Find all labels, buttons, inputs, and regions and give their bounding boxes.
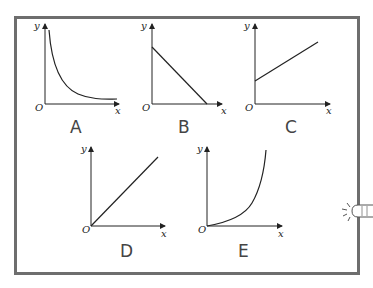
y-axis-label: y [140, 20, 147, 31]
graph-e: y O x E [196, 143, 284, 261]
origin-label: O [142, 102, 150, 113]
graph-label-e: E [238, 241, 249, 261]
graph-label-c: C [285, 117, 297, 137]
graph-c: y O x C [243, 20, 332, 137]
graph-d: y O x D [80, 143, 167, 261]
x-axis-label: x [326, 105, 332, 116]
y-axis-label: y [33, 20, 40, 31]
graphs-board: y O x A y O x B y O x C y O x D y [0, 0, 373, 288]
graph-b: y O x B [140, 20, 227, 137]
x-axis-label: x [115, 105, 121, 116]
x-axis-label: x [221, 105, 227, 116]
origin-label: O [35, 102, 43, 113]
graph-label-a: A [70, 117, 82, 137]
y-axis-label: y [196, 143, 203, 154]
y-axis-label: y [80, 143, 87, 154]
graph-label-b: B [178, 117, 190, 137]
origin-label: O [245, 102, 253, 113]
origin-label: O [198, 224, 206, 235]
y-axis-label: y [243, 20, 250, 31]
origin-label: O [82, 224, 90, 235]
graph-a: y O x A [33, 20, 121, 137]
graph-label-d: D [120, 241, 133, 261]
x-axis-label: x [161, 228, 167, 239]
pointing-hand-icon [342, 203, 373, 221]
x-axis-label: x [278, 228, 284, 239]
